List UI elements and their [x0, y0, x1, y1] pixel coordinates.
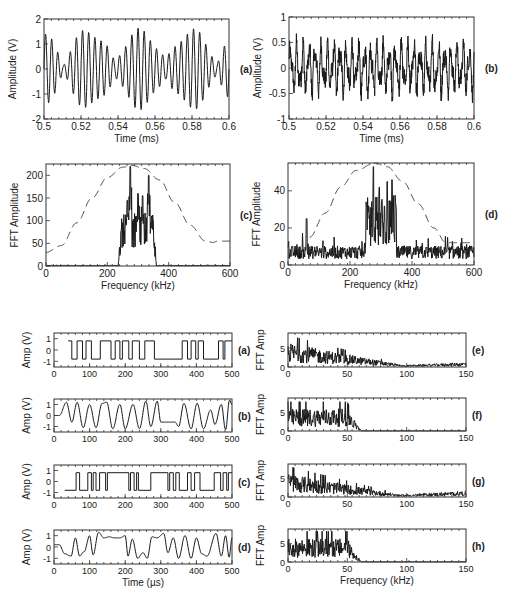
y-tick-label: 1 [46, 334, 51, 344]
x-tick-label: 50 [342, 499, 352, 509]
x-tick-label: 150 [458, 564, 473, 574]
y-tick-label: 5 [280, 474, 285, 484]
panel-label: (h) [472, 541, 485, 552]
panel-label: (b) [485, 63, 498, 74]
x-tick-label: 400 [404, 267, 421, 278]
x-tick-label: 400 [189, 369, 204, 379]
x-tick-label: 100 [82, 566, 97, 576]
x-axis-label: Frequency (kHz) [344, 279, 418, 290]
series-line [54, 532, 232, 558]
y-tick-label: 50 [32, 238, 44, 249]
x-tick-label: 150 [458, 369, 473, 379]
x-tick-label: 100 [82, 500, 97, 510]
x-tick-label: 100 [399, 433, 414, 443]
x-tick-label: 300 [153, 566, 168, 576]
series-line [288, 338, 466, 367]
x-tick-label: 400 [189, 434, 204, 444]
y-tick-label: 0 [46, 477, 51, 487]
y-tick-label: 1 [46, 400, 51, 410]
series-line [288, 167, 474, 259]
y-tick-label: 2 [35, 14, 41, 25]
y-tick-label: 1 [280, 12, 286, 23]
y-tick-label: 5 [280, 344, 285, 354]
y-tick-label: 150 [26, 193, 43, 204]
y-tick-label: -0.5 [269, 88, 287, 99]
x-tick-label: 0 [285, 564, 290, 574]
panel-bottom-c: 0100200300400500-101Amp (V)(c) [21, 463, 250, 510]
x-tick-label: 400 [189, 500, 204, 510]
x-tick-label: 0 [285, 433, 290, 443]
x-tick-label: 0 [285, 499, 290, 509]
x-axis-label: Time (µs) [122, 577, 164, 588]
y-tick-label: -1 [43, 422, 51, 432]
x-tick-label: 0 [51, 500, 56, 510]
x-tick-label: 0 [51, 369, 56, 379]
x-tick-label: 400 [160, 268, 177, 279]
x-tick-label: 0 [43, 268, 49, 279]
x-tick-label: 200 [342, 267, 359, 278]
x-tick-label: 150 [458, 433, 473, 443]
series-line [54, 400, 232, 429]
panel-label: (c) [238, 477, 250, 488]
x-tick-label: 200 [118, 500, 133, 510]
x-axis-label: Frequency (kHz) [340, 575, 414, 586]
panel-label: (a) [238, 345, 250, 356]
y-axis-label: Amp (V) [21, 463, 32, 500]
y-axis-label: FFT Amp [255, 329, 266, 370]
x-tick-label: 0.56 [145, 121, 165, 132]
series-line [68, 341, 232, 359]
y-tick-label: 0 [280, 493, 285, 503]
panel-label: (d) [485, 209, 498, 220]
y-tick-label: -1 [43, 554, 51, 564]
x-tick-label: 300 [153, 369, 168, 379]
x-tick-label: 0 [285, 267, 291, 278]
y-tick-label: 100 [26, 215, 43, 226]
x-tick-label: 200 [118, 369, 133, 379]
series-line [289, 34, 474, 103]
plot-frame [54, 465, 232, 498]
panel-bottom-g: 05010015005FFT Amp(g) [255, 460, 485, 509]
x-tick-label: 0.58 [182, 121, 202, 132]
y-axis-label: FFT Amp [255, 460, 266, 501]
x-tick-label: 100 [82, 434, 97, 444]
x-tick-label: 500 [224, 369, 239, 379]
y-tick-label: 0 [46, 346, 51, 356]
x-tick-label: 0 [285, 369, 290, 379]
x-tick-label: 0.6 [467, 121, 481, 132]
x-tick-label: 0.54 [353, 121, 373, 132]
panel-bottom-h: 05010015005Frequency (kHz)FFT Amp(h) [255, 525, 485, 586]
panel-top-d: 020040060002040Frequency (kHz)FFT Amplit… [251, 163, 498, 290]
x-tick-label: 50 [342, 564, 352, 574]
x-tick-label: 0.52 [316, 121, 336, 132]
y-axis-label: Amplitude (V) [252, 38, 263, 99]
y-tick-label: 5 [280, 408, 285, 418]
series-line [44, 28, 229, 110]
y-tick-label: -1 [43, 357, 51, 367]
y-tick-label: 0 [280, 427, 285, 437]
x-tick-label: 0.52 [71, 121, 91, 132]
x-tick-label: 500 [224, 566, 239, 576]
series-line [288, 467, 466, 496]
series-line [288, 402, 466, 431]
plot-frame [54, 530, 232, 564]
y-tick-label: 40 [274, 185, 286, 196]
y-tick-label: 0 [46, 411, 51, 421]
x-axis-label: Time (ms) [114, 133, 159, 144]
x-axis-label: Frequency (kHz) [101, 280, 175, 291]
y-tick-label: 0 [280, 558, 285, 568]
series-line [46, 166, 230, 266]
y-axis-label: Amplitude (V) [7, 39, 18, 100]
y-tick-label: 0 [279, 260, 285, 271]
x-tick-label: 600 [222, 268, 239, 279]
x-tick-label: 0 [51, 434, 56, 444]
x-tick-label: 50 [342, 369, 352, 379]
y-tick-label: 0 [37, 261, 43, 272]
y-tick-label: 1 [46, 466, 51, 476]
y-tick-label: 1 [35, 39, 41, 50]
y-tick-label: -1 [43, 488, 51, 498]
x-tick-label: 0.56 [390, 121, 410, 132]
panel-bottom-f: 05010015005FFT Amp(f) [255, 394, 482, 443]
x-tick-label: 0.58 [427, 121, 447, 132]
x-tick-label: 0.54 [108, 121, 128, 132]
y-tick-label: 1 [46, 531, 51, 541]
